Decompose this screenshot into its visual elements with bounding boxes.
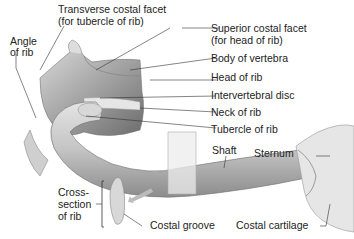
label-transverse-costal-facet: Transverse costal facet	[58, 4, 166, 16]
label-cross-section-2: section	[58, 199, 91, 211]
label-angle-of-rib-sub: of rib	[10, 47, 33, 59]
label-costal-groove: Costal groove	[150, 220, 215, 232]
rib-illustration	[0, 0, 354, 239]
label-tubercle-of-rib: Tubercle of rib	[211, 124, 278, 136]
label-body-of-vertebra: Body of vertebra	[211, 53, 288, 65]
label-neck-of-rib: Neck of rib	[211, 107, 261, 119]
label-intervertebral-disc: Intervertebral disc	[211, 90, 294, 102]
section-plane	[168, 132, 196, 194]
label-shaft: Shaft	[212, 145, 237, 157]
label-head-of-rib: Head of rib	[211, 72, 262, 84]
label-transverse-costal-facet-sub: (for tubercle of rib)	[58, 16, 144, 28]
label-superior-costal-facet: Superior costal facet	[211, 23, 307, 35]
label-sternum: Sternum	[254, 148, 294, 160]
label-costal-cartilage: Costal cartilage	[236, 220, 308, 232]
label-superior-costal-facet-sub: (for head of rib)	[211, 35, 283, 47]
label-cross-section: Cross-	[58, 187, 89, 199]
label-cross-section-3: of rib	[58, 211, 81, 223]
sternum-drawing	[296, 125, 354, 232]
